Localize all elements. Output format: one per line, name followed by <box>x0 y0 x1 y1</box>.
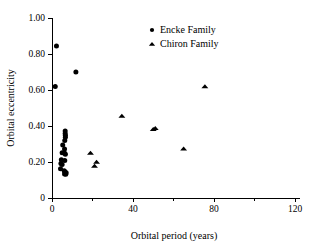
x-axis-title: Orbital period (years) <box>131 230 218 242</box>
x-tick-label: 120 <box>288 204 303 214</box>
legend-marker-circle <box>150 28 154 32</box>
y-axis-title: Orbital eccentricity <box>5 69 16 146</box>
x-tick-label: 0 <box>50 204 55 214</box>
x-tick-label: 80 <box>209 204 219 214</box>
y-tick-label: 0.20 <box>28 157 45 167</box>
data-point-circle <box>60 162 65 167</box>
scatter-chart: 00.200.400.600.801.00 04080120 Encke Fam… <box>0 0 310 247</box>
y-tick-label: 0.60 <box>28 85 45 95</box>
data-point-circle <box>63 172 68 177</box>
chart-background <box>0 0 310 247</box>
y-tick-label: 0.80 <box>28 49 45 59</box>
y-tick-label: 1.00 <box>28 13 45 23</box>
data-point-circle <box>73 70 78 75</box>
y-tick-label: 0.40 <box>28 121 45 131</box>
data-point-circle <box>53 84 58 89</box>
y-tick-label: 0 <box>40 193 45 203</box>
x-tick-label: 40 <box>128 204 138 214</box>
data-point-circle <box>63 152 68 157</box>
plot-canvas: 00.200.400.600.801.00 04080120 Encke Fam… <box>0 0 310 247</box>
data-point-circle <box>54 43 59 48</box>
data-point-circle <box>62 138 67 143</box>
legend-label: Encke Family <box>160 24 216 35</box>
legend-label: Chiron Family <box>160 38 219 49</box>
